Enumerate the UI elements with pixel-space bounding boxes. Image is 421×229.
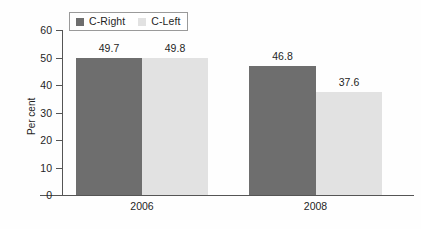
y-axis-tick (56, 30, 62, 31)
y-axis-tick-label: 20 (10, 135, 52, 146)
bar-value-label: 49.7 (76, 43, 142, 54)
y-axis-tick-label: 30 (10, 108, 52, 119)
x-axis-line (40, 195, 414, 196)
y-axis-tick-label: 60 (10, 25, 52, 36)
y-axis-line (62, 30, 63, 195)
y-axis-tick (56, 113, 62, 114)
legend-swatch-dark-icon (76, 18, 84, 26)
bar-c-left-2008 (316, 92, 382, 195)
y-axis-tick (56, 58, 62, 59)
y-axis-tick (56, 140, 62, 141)
bar-value-label: 46.8 (249, 51, 316, 62)
legend-label-c-right: C-Right (89, 16, 125, 27)
y-axis-tick (56, 85, 62, 86)
bar-value-label: 37.6 (316, 77, 382, 88)
legend-label-c-left: C-Left (151, 16, 180, 27)
x-axis-label-2008: 2008 (249, 201, 382, 212)
legend-item-c-right: C-Right (76, 16, 125, 27)
bar-c-right-2006 (76, 58, 142, 195)
bar-value-label: 49.8 (142, 43, 208, 54)
y-axis-tick-label: 10 (10, 163, 52, 174)
bar-chart: C-Right C-Left Per cent 6050403020100 49… (0, 0, 421, 229)
y-axis-tick (56, 168, 62, 169)
y-axis-tick-label: 0 (10, 190, 52, 201)
bar-c-left-2006 (142, 58, 208, 195)
bar-c-right-2008 (249, 66, 316, 195)
y-axis-tick-label: 40 (10, 80, 52, 91)
y-axis-tick (56, 195, 62, 196)
x-axis-label-2006: 2006 (76, 201, 208, 212)
y-axis-tick-label: 50 (10, 53, 52, 64)
legend-item-c-left: C-Left (138, 16, 180, 27)
legend-swatch-light-icon (138, 18, 146, 26)
chart-legend: C-Right C-Left (69, 12, 188, 31)
